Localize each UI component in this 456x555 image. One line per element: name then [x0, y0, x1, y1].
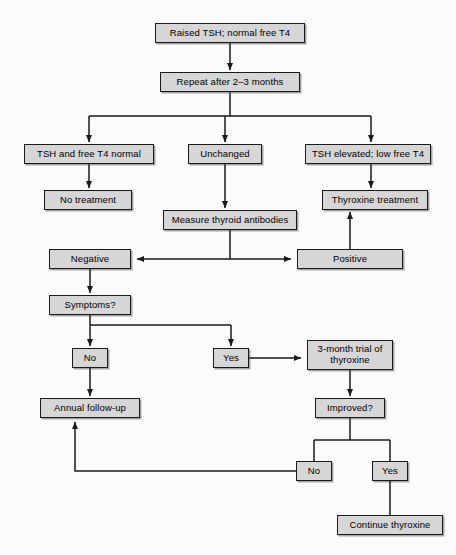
connector-no-improved-feedback — [75, 422, 296, 471]
node-continue-thyroxine[interactable]: Continue thyroxine — [337, 515, 443, 535]
node-annual-follow-up[interactable]: Annual follow-up — [40, 398, 140, 418]
node-measure-antibodies[interactable]: Measure thyroid antibodies — [163, 210, 297, 230]
node-yes-improved[interactable]: Yes — [372, 461, 408, 481]
node-symptoms[interactable]: Symptoms? — [49, 295, 131, 315]
node-no-treatment[interactable]: No treatment — [44, 190, 132, 210]
node-yes-symptoms[interactable]: Yes — [213, 348, 249, 368]
node-three-month-trial[interactable]: 3-month trial of thyroxine — [307, 340, 393, 370]
node-no-symptoms[interactable]: No — [72, 348, 108, 368]
node-repeat[interactable]: Repeat after 2–3 months — [160, 72, 300, 92]
node-unchanged[interactable]: Unchanged — [188, 144, 262, 164]
node-improved[interactable]: Improved? — [315, 398, 385, 418]
node-no-improved[interactable]: No — [296, 461, 332, 481]
node-positive[interactable]: Positive — [297, 249, 403, 269]
node-tsh-elevated[interactable]: TSH elevated; low free T4 — [305, 144, 431, 164]
node-negative[interactable]: Negative — [49, 249, 131, 269]
node-tsh-free-t4-normal[interactable]: TSH and free T4 normal — [24, 144, 154, 164]
flowchart-canvas: Raised TSH; normal free T4 Repeat after … — [0, 0, 456, 555]
node-raised-tsh[interactable]: Raised TSH; normal free T4 — [155, 23, 305, 43]
node-thyroxine-treatment[interactable]: Thyroxine treatment — [322, 190, 428, 210]
